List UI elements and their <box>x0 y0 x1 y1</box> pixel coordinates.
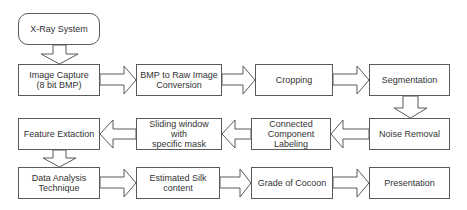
node-xray-system: X-Ray System <box>18 13 100 45</box>
node-noise-removal: Noise Removal <box>369 118 450 150</box>
arrow-right-icon <box>333 66 369 94</box>
flowchart-canvas: X-Ray System Image Capture (8 bit BMP) B… <box>0 0 467 210</box>
node-image-capture: Image Capture (8 bit BMP) <box>18 64 100 96</box>
node-data-analysis: Data Analysis Technique <box>18 167 100 199</box>
node-label: Noise Removal <box>379 129 440 139</box>
node-label: Segmentation <box>382 75 438 85</box>
arrow-left-icon <box>100 120 136 148</box>
arrow-down-icon <box>41 45 78 64</box>
node-label: Presentation <box>384 178 435 188</box>
node-presentation: Presentation <box>369 167 450 199</box>
arrow-right-icon <box>220 169 251 197</box>
node-label: Sliding window with specific mask <box>140 119 218 149</box>
node-segmentation: Segmentation <box>369 64 450 96</box>
arrow-right-icon <box>333 169 369 197</box>
node-sliding-window: Sliding window with specific mask <box>136 118 222 150</box>
node-cropping: Cropping <box>255 64 333 96</box>
node-label: Cropping <box>276 75 313 85</box>
node-connected-component-labeling: Connected Component Labeling <box>251 118 331 150</box>
arrow-down-icon <box>394 96 427 118</box>
arrow-left-icon <box>331 120 369 148</box>
arrow-right-icon <box>100 66 136 94</box>
node-label: BMP to Raw Image Conversion <box>140 70 217 90</box>
node-grade-of-cocoon: Grade of Cocoon <box>251 167 333 199</box>
node-feature-extraction: Feature Extaction <box>18 118 100 150</box>
node-bmp-conversion: BMP to Raw Image Conversion <box>136 64 222 96</box>
node-label: Grade of Cocoon <box>258 178 327 188</box>
node-estimated-silk: Estimated Silk content <box>136 167 220 199</box>
node-label: Estimated Silk content <box>149 173 206 193</box>
node-label: X-Ray System <box>30 24 88 34</box>
node-label: Image Capture (8 bit BMP) <box>29 70 89 90</box>
node-label: Connected Component Labeling <box>255 119 327 149</box>
arrow-right-icon <box>100 169 136 197</box>
node-label: Data Analysis Technique <box>32 173 87 193</box>
arrow-left-icon <box>222 120 251 148</box>
node-label: Feature Extaction <box>24 129 95 139</box>
arrow-down-icon <box>43 150 76 167</box>
arrow-right-icon <box>222 66 255 94</box>
